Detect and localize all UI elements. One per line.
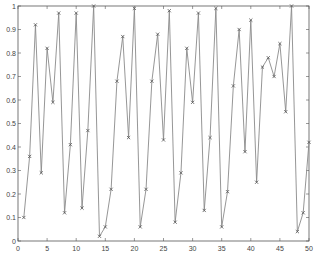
- y-tick-label: 0.7: [6, 73, 16, 80]
- y-tick-label: 0.4: [6, 144, 16, 151]
- y-tick-label: 0.3: [6, 167, 16, 174]
- line-chart: 05101520253035404550 00.10.20.30.40.50.6…: [0, 0, 318, 266]
- y-tick-label: 0.5: [6, 120, 16, 127]
- x-tick-label: 50: [305, 245, 313, 252]
- y-tick-label: 0.2: [6, 191, 16, 198]
- x-tick-label: 20: [131, 245, 139, 252]
- y-tick-label: 0.6: [6, 97, 16, 104]
- x-tick-label: 30: [189, 245, 197, 252]
- x-tick-label: 40: [247, 245, 255, 252]
- series-line: [24, 6, 309, 236]
- x-tick-label: 5: [45, 245, 49, 252]
- x-tick-label: 10: [72, 245, 80, 252]
- x-tick-label: 25: [160, 245, 168, 252]
- y-tick-label: 0.8: [6, 50, 16, 57]
- series-group: [22, 4, 310, 238]
- x-tick-label: 15: [101, 245, 109, 252]
- y-tick-label: 0.1: [6, 214, 16, 221]
- y-tick-label: 1: [12, 3, 16, 10]
- x-tick-label: 45: [276, 245, 284, 252]
- y-tick-label: 0: [12, 238, 16, 245]
- x-tick-label: 0: [16, 245, 20, 252]
- x-axis-ticks: 05101520253035404550: [16, 6, 313, 252]
- y-tick-label: 0.9: [6, 26, 16, 33]
- x-tick-label: 35: [218, 245, 226, 252]
